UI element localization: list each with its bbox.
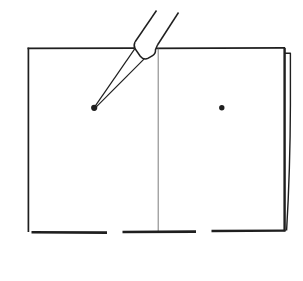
- stylus-barrel-left-edge: [135, 11, 157, 43]
- sheet-top-edge-right: [150, 48, 285, 49]
- stylus-tip-lower-edge: [95, 59, 144, 108]
- illustration-canvas: [0, 0, 303, 281]
- right-page-dot: [219, 105, 224, 110]
- stylus-tip-upper-edge: [94, 49, 135, 108]
- left-page-dot: [91, 105, 97, 111]
- stylus-ferrule: [134, 42, 157, 59]
- figure-svg: [0, 0, 303, 281]
- stylus-barrel-right-edge: [158, 13, 179, 46]
